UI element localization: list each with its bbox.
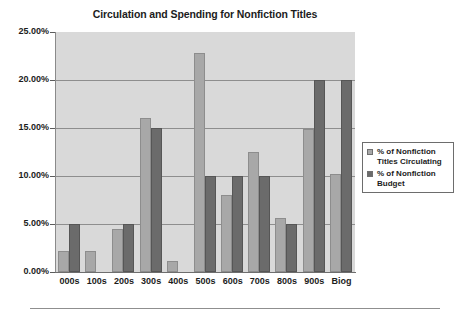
legend-item-series-1: % of NonfictionBudget: [367, 169, 450, 188]
y-tick-mark: [50, 272, 55, 273]
y-axis-tick-label: 15.00%: [3, 122, 49, 132]
bar-group-500s: [194, 32, 217, 272]
chart-figure: Circulation and Spending for Nonfiction …: [0, 0, 471, 317]
bar-500s-series-0: [194, 53, 205, 272]
y-tick-mark: [50, 80, 55, 81]
bar-100s-series-0: [85, 251, 96, 272]
x-axis-tick-label-Biog: Biog: [324, 276, 358, 286]
chart-title: Circulation and Spending for Nonfiction …: [55, 8, 355, 20]
bar-Biog-series-1: [341, 80, 352, 272]
y-axis-tick-label: 0.00%: [3, 266, 49, 276]
bar-400s-series-0: [167, 261, 178, 272]
bar-300s-series-0: [140, 118, 151, 272]
footer-divider: [30, 308, 440, 309]
y-tick-mark: [50, 128, 55, 129]
bar-Biog-series-0: [330, 174, 341, 272]
y-axis-tick-label: 5.00%: [3, 218, 49, 228]
bar-600s-series-1: [232, 176, 243, 272]
x-axis-line: [55, 272, 356, 273]
bar-group-Biog: [330, 32, 353, 272]
bar-700s-series-0: [248, 152, 259, 272]
y-tick-mark: [50, 176, 55, 177]
y-axis-tick-label: 10.00%: [3, 170, 49, 180]
bar-group-000s: [58, 32, 81, 272]
bar-group-800s: [275, 32, 298, 272]
legend-label-series-0: % of NonfictionTitles Circulating: [377, 147, 442, 166]
plot-area: [56, 32, 355, 272]
legend-item-series-0: % of NonfictionTitles Circulating: [367, 147, 450, 166]
bar-600s-series-0: [221, 195, 232, 272]
bar-group-900s: [303, 32, 326, 272]
legend-swatch-icon: [367, 149, 373, 155]
bar-800s-series-1: [286, 224, 297, 272]
bar-group-700s: [248, 32, 271, 272]
bar-group-300s: [140, 32, 163, 272]
bar-group-600s: [221, 32, 244, 272]
bar-300s-series-1: [151, 128, 162, 272]
y-tick-mark: [50, 32, 55, 33]
bar-000s-series-0: [58, 251, 69, 272]
legend-swatch-icon: [367, 171, 373, 177]
y-tick-mark: [50, 224, 55, 225]
bar-group-400s: [167, 32, 190, 272]
bar-group-200s: [112, 32, 135, 272]
legend-label-series-1: % of NonfictionBudget: [377, 169, 436, 188]
y-axis-labels: 25.00%20.00%15.00%10.00%5.00%0.00%: [0, 0, 49, 317]
bar-500s-series-1: [205, 176, 216, 272]
bar-800s-series-0: [275, 218, 286, 272]
bar-200s-series-0: [112, 229, 123, 272]
bar-group-100s: [85, 32, 108, 272]
bar-000s-series-1: [69, 224, 80, 272]
bar-200s-series-1: [123, 224, 134, 272]
y-axis-tick-label: 25.00%: [3, 26, 49, 36]
chart-legend: % of NonfictionTitles Circulating % of N…: [362, 142, 454, 193]
y-axis-tick-label: 20.00%: [3, 74, 49, 84]
bar-900s-series-0: [303, 129, 314, 272]
bar-700s-series-1: [259, 176, 270, 272]
bar-900s-series-1: [314, 80, 325, 272]
